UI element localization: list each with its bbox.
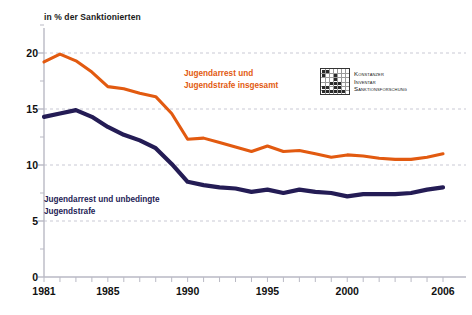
legend-label-total-line1: Jugendarrest und — [184, 68, 278, 80]
y-axis-tick-labels: 05101520 — [0, 0, 38, 315]
legend-label-unconditional: Jugendarrest und unbedingte Jugendstrafe — [44, 194, 160, 217]
x-tick-label: 1981 — [32, 285, 55, 297]
x-tick-label: 1990 — [176, 285, 199, 297]
tick-marks-group — [38, 25, 443, 282]
logo-line-2: Inventar — [354, 78, 407, 86]
x-tick-label: 1985 — [96, 285, 119, 297]
legend-label-total-line2: Jugendstrafe insgesamt — [184, 80, 278, 92]
institute-logo-text: Konstanzer Inventar Sanktionsforschung — [354, 70, 407, 93]
y-axis-title: in % der Sanktionierten — [44, 12, 141, 22]
legend-label-total: Jugendarrest und Jugendstrafe insgesamt — [184, 68, 278, 91]
chart-container: in % der Sanktionierten 05101520 1981198… — [0, 0, 472, 315]
y-tick-label: 20 — [12, 47, 38, 59]
chart-plot-area — [0, 0, 472, 315]
series-line-unconditional — [44, 110, 443, 196]
legend-label-unconditional-line1: Jugendarrest und unbedingte — [44, 194, 160, 206]
y-tick-label: 5 — [12, 215, 38, 227]
axes-group — [44, 28, 466, 277]
x-tick-label: 1995 — [256, 285, 279, 297]
konstanz-grid-icon — [320, 68, 350, 95]
logo-line-3: Sanktionsforschung — [354, 85, 407, 93]
y-tick-label: 10 — [12, 159, 38, 171]
x-tick-label: 2006 — [431, 285, 454, 297]
institute-logo: Konstanzer Inventar Sanktionsforschung — [320, 68, 407, 95]
x-tick-label: 2000 — [336, 285, 359, 297]
legend-label-unconditional-line2: Jugendstrafe — [44, 206, 160, 218]
y-tick-label: 0 — [12, 271, 38, 283]
logo-line-1: Konstanzer — [354, 70, 407, 78]
y-tick-label: 15 — [12, 103, 38, 115]
